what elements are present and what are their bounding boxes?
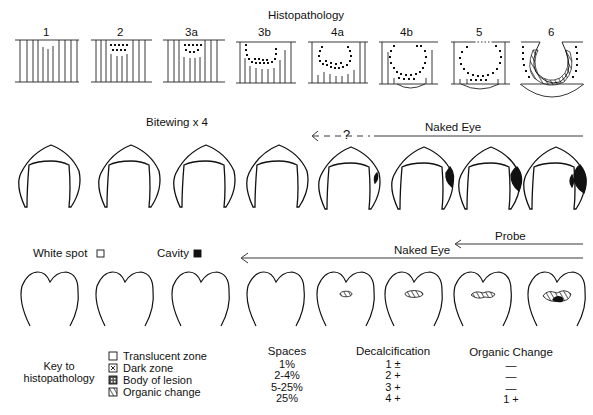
organic-change-block-6 — [530, 50, 572, 85]
bitewing-crown-2 — [99, 145, 160, 207]
molar-5 — [317, 272, 374, 326]
histo-block-3a — [163, 40, 225, 82]
molar-6 — [385, 272, 442, 326]
probe-label: Probe — [495, 230, 526, 242]
white-spot-swatch — [97, 250, 104, 257]
body-of-lesion-swatch — [109, 376, 117, 384]
clinical-naked-eye-label: Naked Eye — [394, 244, 450, 256]
molar-3 — [172, 272, 229, 326]
key-legend: Translucent zone Dark zone Body of lesio… — [123, 350, 207, 398]
stage-label-6: 6 — [548, 26, 554, 38]
stage-label-2: 2 — [117, 26, 123, 38]
histo-block-4a — [308, 42, 368, 83]
histo-block-1 — [15, 40, 79, 82]
bitewing-crown-8 — [524, 147, 587, 209]
histo-block-4b — [379, 42, 438, 88]
molar-7 — [454, 272, 511, 326]
bitewing-uncertain-mark: ? — [343, 127, 350, 142]
histo-block-6 — [520, 42, 584, 97]
stage-label-3a: 3a — [185, 26, 198, 38]
spaces-header: Spaces — [262, 346, 312, 358]
dots-block-5 — [459, 45, 502, 81]
molar-8 — [528, 272, 585, 326]
dots-block-3a — [184, 44, 202, 53]
dots-block-4a — [318, 46, 352, 69]
translucent-zone-swatch — [109, 352, 117, 360]
bitewing-naked-eye-label: Naked Eye — [425, 121, 481, 133]
spaces-value: 2-4% — [262, 370, 312, 382]
stage-label-3b: 3b — [258, 26, 271, 38]
bitewing-crown-7 — [459, 147, 522, 209]
organic-change-value: 1 + — [466, 394, 556, 406]
stage-label-4a: 4a — [331, 26, 344, 38]
legend-dark-zone: Dark zone — [123, 362, 207, 374]
histo-block-5 — [451, 42, 510, 89]
decalcification-column: Decalcification 1 ± 2 + 3 + 4 + — [352, 346, 434, 405]
white-spot-label: White spot — [33, 247, 87, 259]
organic-change-swatch — [109, 388, 117, 396]
bitewing-crown-4 — [247, 145, 308, 207]
histopathology-title: Histopathology — [268, 9, 344, 21]
decalcification-header: Decalcification — [352, 346, 434, 358]
legend-translucent-zone: Translucent zone — [123, 350, 207, 362]
bitewing-title: Bitewing x 4 — [146, 116, 208, 128]
dots-block-4b — [389, 45, 427, 80]
key-title-line2: histopathology — [16, 372, 102, 384]
decalcification-value: 4 + — [352, 393, 434, 405]
molar-1 — [21, 272, 78, 326]
legend-organic-change: Organic change — [123, 386, 207, 398]
spaces-value: 25% — [262, 393, 312, 405]
histo-block-3b — [236, 42, 296, 83]
dots-block-3b — [245, 44, 277, 64]
bitewing-crown-1 — [19, 145, 80, 207]
organic-change-header: Organic Change — [466, 347, 556, 359]
bitewing-crown-3 — [174, 145, 235, 207]
organic-change-column: Organic Change — — — 1 + — [466, 347, 556, 406]
stage-label-1: 1 — [43, 26, 49, 38]
decalcification-value: 2 + — [352, 370, 434, 382]
molar-4 — [247, 272, 304, 326]
spaces-column: Spaces 1% 2-4% 5-25% 25% — [262, 346, 312, 405]
legend-body-of-lesion: Body of lesion — [123, 374, 207, 386]
organic-change-value: — — [466, 371, 556, 383]
cavity-label: Cavity — [157, 247, 189, 259]
bitewing-crown-6 — [392, 147, 454, 209]
cavity-swatch — [194, 250, 201, 257]
bitewing-crown-5 — [319, 147, 380, 209]
histo-block-2 — [91, 40, 152, 82]
stage-label-5: 5 — [476, 26, 482, 38]
molar-2 — [96, 272, 153, 326]
dots-block-2 — [110, 44, 128, 51]
stage-label-4b: 4b — [400, 26, 413, 38]
key-title-line1: Key to — [16, 360, 102, 372]
dark-zone-swatch — [109, 364, 117, 372]
key-title: Key to histopathology — [16, 360, 102, 384]
